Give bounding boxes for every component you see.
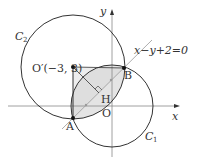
point-h-label: H <box>101 93 111 106</box>
line-equation-label: x−y+2=0 <box>134 44 188 57</box>
x-axis-label: x <box>172 110 179 123</box>
circle-c1-subscript: 1 <box>153 136 157 144</box>
tick-mark-ah <box>85 104 87 106</box>
tick-mark-hb <box>110 79 112 81</box>
circle-c2-subscript: 2 <box>23 36 27 44</box>
y-axis-arrow-icon <box>110 9 114 15</box>
y-axis-label: y <box>99 5 107 18</box>
point-a-label: A <box>65 120 75 133</box>
diagram-canvas: y x O C 2 C 1 O′(−3, 3) A B H x−y+2=0 <box>0 0 199 158</box>
point-b-label: B <box>124 69 132 82</box>
origin-label: O <box>102 107 111 120</box>
point-o-prime-label: O′(−3, 3) <box>32 62 82 75</box>
x-axis-arrow-icon <box>174 104 180 108</box>
